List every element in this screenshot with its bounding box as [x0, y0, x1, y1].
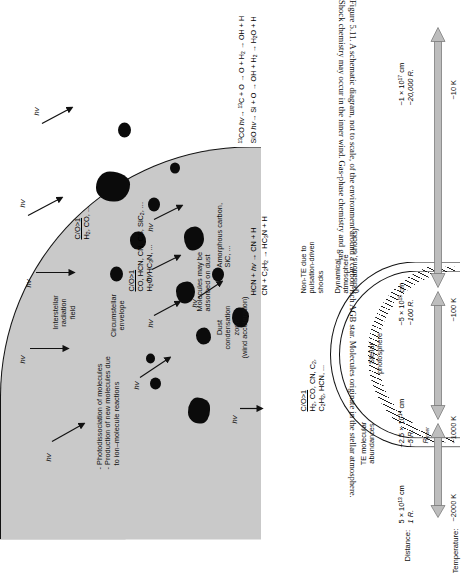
- photodissociation-note: - Photodissociation of molecules - Produ…: [96, 356, 121, 469]
- temperature-tick: ~10 K: [450, 79, 458, 99]
- dust-condensation-zone-label: Dust condensation zone (wind acceleratio…: [216, 281, 249, 373]
- circumstellar-envelope-label: Circumstellar envelope: [110, 279, 127, 351]
- temperature-tick: ~2000 K: [450, 493, 458, 521]
- molecules-adsorbed-label: Molecules may be adsorbed on dust: [196, 251, 213, 311]
- shock-reactions: HCN + hv → CN + H CN + C2H2 → HC3N + H: [248, 216, 271, 295]
- dust-grain: [188, 397, 210, 423]
- photon-label: hv: [132, 381, 141, 389]
- photon-label: hv: [32, 107, 41, 115]
- photon-arrow: [26, 191, 70, 217]
- distance-tick: ~2.5 × 1014 cm ~5 R.: [398, 398, 415, 447]
- shock-reaction-row: CN + C2H2 → HC3N + H: [259, 216, 271, 295]
- photon-arrow: [138, 351, 178, 379]
- photon-label: hv: [18, 199, 27, 207]
- photosphere-species: C/O>1 H2, CO, CN, C2, C2H2, HCN, ...: [300, 359, 327, 411]
- dust-grain: [170, 162, 180, 173]
- shock-reaction-row: HCN + hv → CN + H: [248, 216, 259, 295]
- distance-axis-label: Distance:: [404, 529, 413, 561]
- photon-arrow: [152, 199, 190, 221]
- photon-label: hv: [146, 319, 155, 327]
- distance-tick-line2: ~20,000 R.: [407, 62, 416, 105]
- photon-arrow: [238, 401, 268, 413]
- temperature-axis-label: Temperature:: [452, 528, 461, 573]
- photon-label: hv: [18, 355, 27, 363]
- photon-label: hv: [44, 453, 53, 461]
- photon-label: hv: [230, 415, 239, 423]
- distance-tick: ~5 × 1015 cm ~100 R.: [398, 282, 415, 325]
- dust-grain: [184, 226, 204, 250]
- inner-cse-species-line: H2O, HC3N, ...: [146, 202, 155, 291]
- inner-cse-species: C/O>1 CO, HCN, CN, CS, SiC2, ... H2O, HC…: [128, 202, 155, 291]
- temperature-tick: ~100 K: [450, 297, 458, 321]
- photon-arrow: [34, 263, 80, 277]
- interstellar-radiation-field-label: Interstellar radiation field: [52, 277, 77, 347]
- photon-arrow: [50, 417, 90, 443]
- outer-cse-species: C/O>1 H2, CO, ...: [74, 205, 92, 239]
- photochem-reactions: 13CO hv→ 13C + O → O + H2 → OH + H SiO h…: [236, 15, 259, 143]
- distance-tick: ~1 × 1017 cm ~20,000 R.: [398, 62, 415, 105]
- photochem-reaction-row: SiO hv→ Si + O → OH + H2 → H2O + H: [248, 15, 260, 143]
- outer-cse-species-line: H2, CO, ...: [83, 205, 92, 239]
- te-abundances-label: TE molecular abundances: [360, 403, 377, 483]
- distance-scale-arrow: [430, 19, 446, 519]
- distance-tick-line2: ~100 R.: [407, 282, 416, 325]
- figure-caption: Figure 5.11. A schematic diagram, not to…: [328, 0, 358, 520]
- non-te-label: Non-TE due to pulsation-driven shocks: [300, 241, 325, 293]
- amorphous-carbon-label: Amorphous carbon, SiC, ...: [216, 203, 233, 268]
- photon-arrow: [152, 295, 188, 317]
- dust-grain: [96, 171, 130, 201]
- photochem-reaction-row: 13CO hv→ 13C + O → O + H2 → OH + H: [236, 15, 248, 143]
- distance-tick: 5 × 1013 cm 1 R.: [398, 485, 415, 523]
- photon-arrow: [40, 101, 80, 125]
- distance-tick-line2: ~5 R.: [407, 398, 416, 447]
- dust-grain: [196, 327, 211, 344]
- photosphere-species-line: C2H2, HCN, ...: [318, 359, 327, 411]
- stellar-photosphere-label: Stellar photosphere: [368, 315, 385, 391]
- r-inner-label: Rinner: [422, 427, 431, 444]
- distance-tick-line2: 1 R.: [407, 485, 416, 523]
- temperature-tick: ~1000 K: [450, 415, 458, 443]
- photon-arrow: [150, 249, 188, 271]
- photon-label: hv: [24, 279, 33, 287]
- dust-grain: [118, 122, 131, 137]
